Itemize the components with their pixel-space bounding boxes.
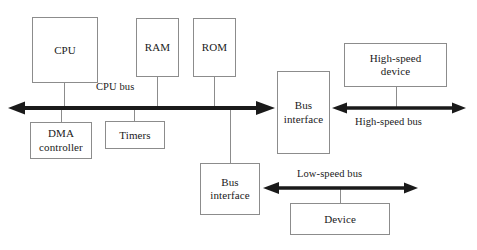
cpu-bus-label: CPU bus bbox=[96, 81, 134, 92]
block-high-speed-device[interactable]: High-speed device bbox=[344, 43, 447, 87]
block-bus-interface-low[interactable]: Bus interface bbox=[200, 163, 260, 215]
high-speed-bus-label: High-speed bus bbox=[355, 116, 422, 127]
block-timers-label: Timers bbox=[119, 129, 150, 142]
block-bus-interface-high-label: Bus interface bbox=[284, 99, 323, 126]
block-cpu-label: CPU bbox=[54, 44, 76, 57]
block-device[interactable]: Device bbox=[290, 203, 390, 235]
block-ram[interactable]: RAM bbox=[136, 18, 179, 77]
cpu-bus-arrow bbox=[8, 101, 275, 115]
diagram-canvas: CPU RAM ROM DMA controller Timers Bus in… bbox=[0, 0, 477, 250]
block-rom[interactable]: ROM bbox=[193, 18, 236, 77]
block-ram-label: RAM bbox=[145, 41, 170, 54]
block-cpu[interactable]: CPU bbox=[32, 17, 98, 83]
block-high-speed-device-label: High-speed device bbox=[370, 52, 422, 79]
low-speed-bus-label: Low-speed bus bbox=[297, 168, 362, 179]
block-rom-label: ROM bbox=[202, 41, 227, 54]
high-speed-bus-arrow bbox=[332, 103, 466, 114]
block-timers[interactable]: Timers bbox=[105, 121, 165, 149]
block-bus-interface-high[interactable]: Bus interface bbox=[277, 71, 330, 154]
block-dma-controller[interactable]: DMA controller bbox=[30, 122, 92, 159]
block-device-label: Device bbox=[324, 213, 356, 226]
block-dma-controller-label: DMA controller bbox=[39, 127, 83, 154]
block-bus-interface-low-label: Bus interface bbox=[210, 176, 249, 203]
